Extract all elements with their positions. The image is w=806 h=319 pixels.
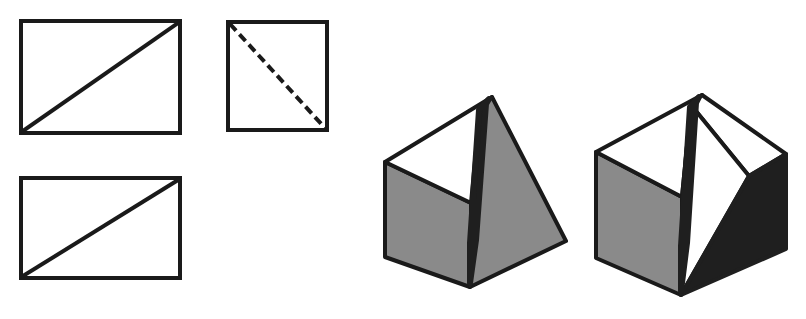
figure-canvas [0, 0, 806, 319]
front-view-rectangle [21, 21, 180, 133]
figure-svg [0, 0, 806, 319]
top-view-square [228, 22, 327, 130]
side-view-rectangle [21, 178, 180, 278]
